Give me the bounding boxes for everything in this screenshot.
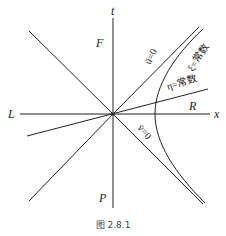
- u-zero-label: ū=0: [142, 47, 159, 66]
- null-line-v0: [113, 114, 203, 204]
- eta-constant-label: η=常数: [165, 71, 198, 92]
- region-future-label: F: [95, 36, 104, 50]
- null-line-lower-left: [29, 114, 113, 201]
- region-left-label: L: [7, 107, 15, 121]
- v-zero-label: v̄=0: [135, 122, 153, 141]
- figure-caption: 图 2.8.1: [96, 220, 131, 230]
- spacetime-diagram: t x F P L R ū=0 v̄=0 ξ=常数 η=常数 图 2.8.1: [0, 0, 226, 236]
- region-past-label: P: [98, 191, 107, 205]
- region-right-label: R: [188, 99, 197, 113]
- t-axis-label: t: [111, 4, 115, 18]
- origin-point: [112, 113, 115, 116]
- x-axis-label: x: [213, 107, 220, 121]
- xi-constant-label: ξ=常数: [185, 41, 212, 73]
- eta-constant-line: [27, 89, 208, 136]
